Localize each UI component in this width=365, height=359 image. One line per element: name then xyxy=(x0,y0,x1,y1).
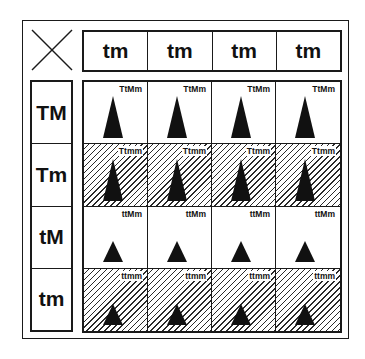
tall-plant-icon xyxy=(167,159,187,201)
genotype-label: ttmm xyxy=(313,271,336,281)
tall-plant-icon xyxy=(231,96,251,138)
tall-plant-icon xyxy=(295,159,315,201)
offspring-cell: Ttmm xyxy=(212,144,276,206)
row-header: TM xyxy=(32,82,71,144)
short-plant-icon xyxy=(167,304,187,325)
offspring-cell: ttmm xyxy=(84,269,148,331)
row-header: tM xyxy=(32,207,71,269)
short-plant-icon xyxy=(231,241,251,262)
tall-plant-icon xyxy=(231,159,251,201)
genotype-label: Ttmm xyxy=(118,146,143,156)
genotype-label: TtMm xyxy=(182,84,207,94)
tall-plant-icon xyxy=(103,96,123,138)
genotype-label: TtMm xyxy=(311,84,336,94)
genotype-label: Ttmm xyxy=(246,146,271,156)
genotype-label: ttMm xyxy=(121,209,143,219)
short-plant-icon xyxy=(295,304,315,325)
tall-plant-icon xyxy=(103,159,123,201)
genotype-label: ttmm xyxy=(120,271,143,281)
offspring-cell: Ttmm xyxy=(84,144,148,206)
offspring-cell: Ttmm xyxy=(148,144,212,206)
genotype-label: ttMm xyxy=(314,209,336,219)
row-header: tm xyxy=(32,269,71,330)
short-plant-icon xyxy=(167,241,187,262)
genotype-label: ttMm xyxy=(185,209,207,219)
offspring-cell: Ttmm xyxy=(276,144,340,206)
short-plant-icon xyxy=(231,304,251,325)
genotype-label: ttMm xyxy=(249,209,271,219)
genotype-label: TtMm xyxy=(118,84,143,94)
column-header: tm xyxy=(84,32,148,70)
offspring-cell: ttmm xyxy=(212,269,276,331)
offspring-grid: TtMm TtMm TtMm TtMm Ttmm Ttmm Ttmm Ttmm … xyxy=(82,80,342,333)
column-header: tm xyxy=(277,32,340,70)
offspring-cell: ttMm xyxy=(276,207,340,269)
tall-plant-icon xyxy=(167,96,187,138)
genotype-label: ttmm xyxy=(248,271,271,281)
offspring-cell: TtMm xyxy=(276,82,340,144)
short-plant-icon xyxy=(103,241,123,262)
short-plant-icon xyxy=(103,304,123,325)
column-header: tm xyxy=(148,32,212,70)
cross-icon xyxy=(30,28,74,72)
offspring-cell: ttmm xyxy=(148,269,212,331)
offspring-cell: ttMm xyxy=(148,207,212,269)
column-header: tm xyxy=(213,32,277,70)
row-header: Tm xyxy=(32,144,71,206)
genotype-label: Ttmm xyxy=(182,146,207,156)
offspring-cell: TtMm xyxy=(212,82,276,144)
tall-plant-icon xyxy=(295,96,315,138)
offspring-cell: TtMm xyxy=(84,82,148,144)
genotype-label: Ttmm xyxy=(311,146,336,156)
offspring-cell: ttMm xyxy=(212,207,276,269)
row-header-column: TM Tm tM tm xyxy=(30,80,73,332)
column-header-row: tm tm tm tm xyxy=(82,30,342,72)
genotype-label: ttmm xyxy=(184,271,207,281)
offspring-cell: ttMm xyxy=(84,207,148,269)
offspring-cell: TtMm xyxy=(148,82,212,144)
short-plant-icon xyxy=(295,241,315,262)
offspring-cell: ttmm xyxy=(276,269,340,331)
genotype-label: TtMm xyxy=(246,84,271,94)
